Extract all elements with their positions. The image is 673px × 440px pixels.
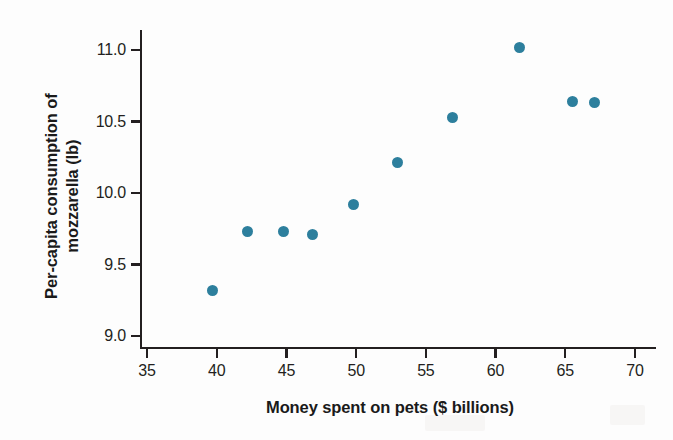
y-tick-mark bbox=[131, 335, 141, 337]
x-tick-mark bbox=[216, 348, 218, 358]
y-tick-label-text: 10.5 bbox=[72, 113, 126, 131]
y-tick-label-text: 11.0 bbox=[72, 41, 126, 59]
x-tick-label: 45 bbox=[261, 362, 311, 382]
data-point bbox=[447, 112, 458, 123]
x-tick-label: 35 bbox=[122, 362, 172, 382]
x-tick-label-text: 40 bbox=[192, 362, 242, 380]
data-point bbox=[514, 42, 525, 53]
y-tick-mark bbox=[131, 120, 141, 122]
data-point bbox=[567, 96, 578, 107]
y-axis-line bbox=[140, 30, 142, 349]
x-tick-label-text: 60 bbox=[471, 362, 521, 380]
data-point bbox=[589, 97, 600, 108]
data-point bbox=[348, 199, 359, 210]
y-tick-mark bbox=[131, 192, 141, 194]
y-tick-mark bbox=[131, 49, 141, 51]
x-tick-label-text: 65 bbox=[540, 362, 590, 380]
y-tick-label-text: 10.0 bbox=[72, 184, 126, 202]
x-tick-label: 40 bbox=[192, 362, 242, 382]
x-tick-label-text: 55 bbox=[401, 362, 451, 380]
scatter-plot-figure: Per-capita consumption of mozzarella (lb… bbox=[0, 0, 673, 440]
data-point bbox=[242, 226, 253, 237]
scan-artifact bbox=[425, 415, 485, 431]
y-tick-label: 10.5 bbox=[70, 113, 126, 131]
x-tick-label-text: 45 bbox=[261, 362, 311, 380]
y-tick-label-text: 9.0 bbox=[72, 327, 126, 345]
data-point bbox=[278, 226, 289, 237]
y-axis-label-line1: Per-capita consumption of bbox=[42, 93, 60, 299]
x-tick-mark bbox=[634, 348, 636, 358]
y-tick-mark bbox=[131, 263, 141, 265]
x-tick-mark bbox=[425, 348, 427, 358]
data-point bbox=[307, 229, 318, 240]
x-tick-label-text: 50 bbox=[331, 362, 381, 380]
x-tick-label-text: 70 bbox=[610, 362, 660, 380]
x-axis-label: Money spent on pets ($ billions) bbox=[120, 398, 660, 417]
x-tick-mark bbox=[146, 348, 148, 358]
x-tick-mark bbox=[564, 348, 566, 358]
y-tick-label: 11.0 bbox=[70, 41, 126, 59]
data-point bbox=[392, 157, 403, 168]
x-tick-mark bbox=[494, 348, 496, 358]
x-tick-mark bbox=[355, 348, 357, 358]
y-tick-label: 10.0 bbox=[70, 184, 126, 202]
x-tick-label-text: 35 bbox=[122, 362, 172, 380]
x-tick-label: 50 bbox=[331, 362, 381, 382]
x-tick-label: 55 bbox=[401, 362, 451, 382]
x-tick-label: 65 bbox=[540, 362, 590, 382]
y-tick-label-text: 9.5 bbox=[72, 256, 126, 274]
x-tick-label: 60 bbox=[471, 362, 521, 382]
data-point bbox=[207, 285, 218, 296]
y-tick-label: 9.0 bbox=[70, 327, 126, 345]
y-tick-label: 9.5 bbox=[70, 256, 126, 274]
x-tick-mark bbox=[285, 348, 287, 358]
x-tick-label: 70 bbox=[610, 362, 660, 382]
